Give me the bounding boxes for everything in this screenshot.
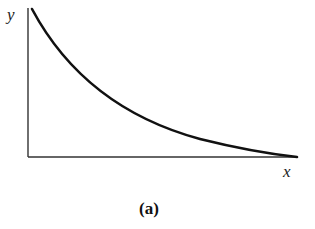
x-axis-label: x: [283, 162, 291, 182]
y-axis-label: y: [7, 5, 15, 25]
plot-area: [0, 0, 315, 229]
decay-curve: [32, 9, 297, 157]
figure-caption: (a): [139, 199, 159, 219]
